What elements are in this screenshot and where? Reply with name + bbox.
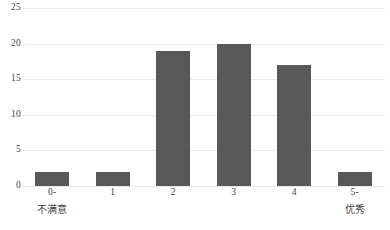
y-axis-tick-label: 20 (0, 39, 21, 49)
bar (156, 51, 190, 186)
gridline (22, 44, 385, 45)
y-axis-tick-label: 0 (0, 181, 21, 191)
gridline (22, 115, 385, 116)
bar (338, 172, 372, 186)
x-axis-tick: 3 (204, 188, 265, 198)
x-axis-tick-label: 3 (204, 188, 265, 198)
x-axis-tick-label: 4 (264, 188, 325, 198)
bar (277, 65, 311, 186)
gridline (22, 150, 385, 151)
x-axis-tick-label: 2 (143, 188, 204, 198)
x-axis-tick-label: 1 (83, 188, 144, 198)
gridline (22, 79, 385, 80)
x-axis-tick: 1 (83, 188, 144, 198)
bar (217, 44, 251, 186)
bar (35, 172, 69, 186)
x-axis-tick-label: 0- (22, 188, 83, 198)
x-axis-tick: 5-优秀 (325, 188, 386, 215)
x-axis-tick: 0-不满意 (22, 188, 83, 215)
x-axis-tick: 4 (264, 188, 325, 198)
plot-area (22, 8, 385, 186)
x-axis-tick: 2 (143, 188, 204, 198)
x-axis-tick-label: 5- (325, 188, 386, 198)
y-axis-tick-label: 10 (0, 110, 21, 120)
gridline (22, 8, 385, 9)
x-axis-tick-labels: 0-不满意12345-优秀 (22, 188, 385, 230)
bar-chart: 0510152025 0-不满意12345-优秀 (0, 0, 390, 230)
y-axis-tick-label: 5 (0, 146, 21, 156)
y-axis-tick-label: 25 (0, 3, 21, 13)
gridline (22, 186, 385, 187)
y-axis-tick-label: 15 (0, 74, 21, 84)
bar (96, 172, 130, 186)
x-axis-tick-sublabel: 优秀 (325, 205, 386, 215)
x-axis-tick-sublabel: 不满意 (22, 205, 83, 215)
